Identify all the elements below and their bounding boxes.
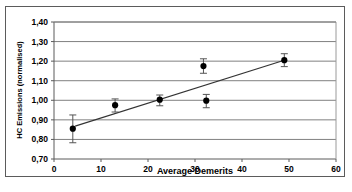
y-tick-label: 0,80	[31, 134, 48, 144]
y-tick-label: 1,10	[31, 76, 48, 86]
y-axis-title: HC Emissions (normalised)	[15, 41, 24, 139]
data-point-marker	[112, 102, 118, 108]
chart-figure: 0,700,800,901,001,101,201,301,40 0102030…	[0, 0, 352, 192]
x-tick-label: 10	[96, 164, 106, 174]
x-tick-label: 50	[284, 164, 294, 174]
data-point-marker	[200, 63, 206, 69]
y-tick-label: 1,00	[31, 95, 48, 105]
data-point-marker	[203, 98, 209, 104]
y-tick-label: 1,20	[31, 56, 48, 66]
plot-area	[54, 22, 336, 159]
data-point-marker	[157, 97, 163, 103]
x-tick-label: 0	[52, 164, 57, 174]
data-point-marker	[281, 57, 287, 63]
y-axis-ticks: 0,700,800,901,001,101,201,301,40	[31, 17, 54, 164]
hc-emissions-scatter-chart: 0,700,800,901,001,101,201,301,40 0102030…	[0, 0, 352, 192]
y-tick-label: 0,70	[31, 154, 48, 164]
y-tick-label: 1,40	[31, 17, 48, 27]
x-tick-label: 20	[143, 164, 153, 174]
y-tick-label: 0,90	[31, 115, 48, 125]
x-tick-label: 40	[237, 164, 247, 174]
x-axis-title: Average Demerits	[157, 166, 233, 176]
x-tick-label: 60	[331, 164, 341, 174]
data-point-marker	[70, 126, 76, 132]
y-tick-label: 1,30	[31, 37, 48, 47]
